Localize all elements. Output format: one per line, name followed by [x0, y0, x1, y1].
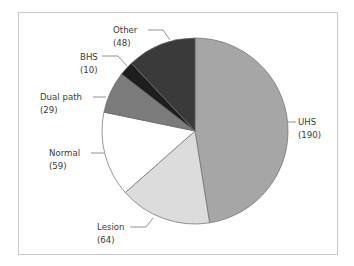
label-lesion-value: (64) — [97, 235, 115, 245]
label-normal-name: Normal — [49, 148, 80, 158]
label-normal-value: (59) — [49, 161, 67, 171]
leader-line-lesion — [130, 218, 153, 227]
label-dual-path-value: (29) — [40, 105, 58, 115]
label-other-name: Other — [113, 25, 138, 35]
label-bhs-value: (10) — [80, 65, 98, 75]
label-bhs-name: BHS — [80, 52, 98, 62]
pie-slice-uhs — [195, 38, 288, 223]
label-uhs-name: UHS — [298, 117, 316, 127]
label-dual-path-name: Dual path — [40, 92, 82, 102]
pie-slices — [102, 38, 288, 224]
leader-line-other — [148, 30, 170, 40]
leader-line-bhs — [102, 56, 127, 66]
label-uhs-value: (190) — [298, 130, 321, 140]
label-other-value: (48) — [113, 38, 131, 48]
pie-chart: Other (48) BHS (10) Dual path (29) Norma… — [0, 0, 354, 266]
label-lesion-name: Lesion — [97, 222, 125, 232]
